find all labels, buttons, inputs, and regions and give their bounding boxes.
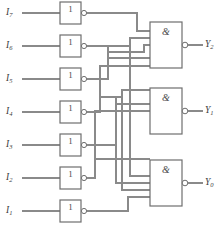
and-gate-nand1[interactable]: &: [150, 88, 203, 134]
inverter-bubble-inv6: [81, 43, 86, 48]
input-label-i6: I6: [5, 40, 13, 51]
inverter-gate-inv3[interactable]: 1: [60, 134, 87, 156]
inverter-bubble-inv1: [81, 208, 86, 213]
inverter-gate-inv5[interactable]: 1: [60, 68, 87, 90]
and-gate-nand0[interactable]: &: [150, 160, 203, 206]
input-labels: I7 I6 I5 I4 I3 I2 I1: [5, 7, 13, 216]
output-labels: Y2 Y1 Y0: [205, 39, 214, 188]
inverter-bubble-inv3: [81, 142, 86, 147]
input-label-i1: I1: [5, 205, 12, 216]
inverter-bubble-inv2: [81, 175, 86, 180]
inverter-symbol-inv4: 1: [68, 103, 73, 113]
inverter-symbol-inv6: 1: [68, 37, 73, 47]
and-symbol-nand0: &: [162, 164, 170, 175]
input-label-i4: I4: [5, 106, 13, 117]
output-label-y0: Y0: [205, 177, 214, 188]
output-label-y2: Y2: [205, 39, 214, 50]
circuit-svg: 1 1 1 1 1 1 1: [0, 0, 216, 235]
inverter-symbol-inv5: 1: [68, 70, 73, 80]
output-label-y1: Y1: [205, 105, 214, 116]
and-symbol-nand1: &: [162, 92, 170, 103]
input-label-i2: I2: [5, 172, 13, 183]
inverter-bubble-inv4: [81, 109, 86, 114]
inverter-gate-inv7[interactable]: 1: [60, 2, 87, 24]
and-gate-nand2[interactable]: &: [150, 22, 203, 68]
inverter-symbol-inv7: 1: [68, 4, 73, 14]
inverter-gate-inv4[interactable]: 1: [60, 101, 87, 123]
inverter-symbol-inv1: 1: [68, 202, 73, 212]
inverter-symbol-inv3: 1: [68, 136, 73, 146]
interconnect-wires: [87, 13, 150, 211]
inverter-gate-inv1[interactable]: 1: [60, 200, 87, 222]
and-symbol-nand2: &: [162, 26, 170, 37]
inverter-bubble-inv5: [81, 76, 86, 81]
and-bubble-nand1: [182, 108, 188, 114]
inverter-bubble-inv7: [81, 10, 86, 15]
and-bubble-nand0: [182, 180, 188, 186]
input-lead-wires: [22, 13, 60, 211]
input-label-i7: I7: [5, 7, 13, 18]
circuit-diagram: 1 1 1 1 1 1 1: [0, 0, 216, 235]
input-label-i3: I3: [5, 139, 13, 150]
inverter-gate-inv2[interactable]: 1: [60, 167, 87, 189]
inverter-gate-inv6[interactable]: 1: [60, 35, 87, 57]
inverter-symbol-inv2: 1: [68, 169, 73, 179]
and-bubble-nand2: [182, 42, 188, 48]
input-label-i5: I5: [5, 73, 13, 84]
